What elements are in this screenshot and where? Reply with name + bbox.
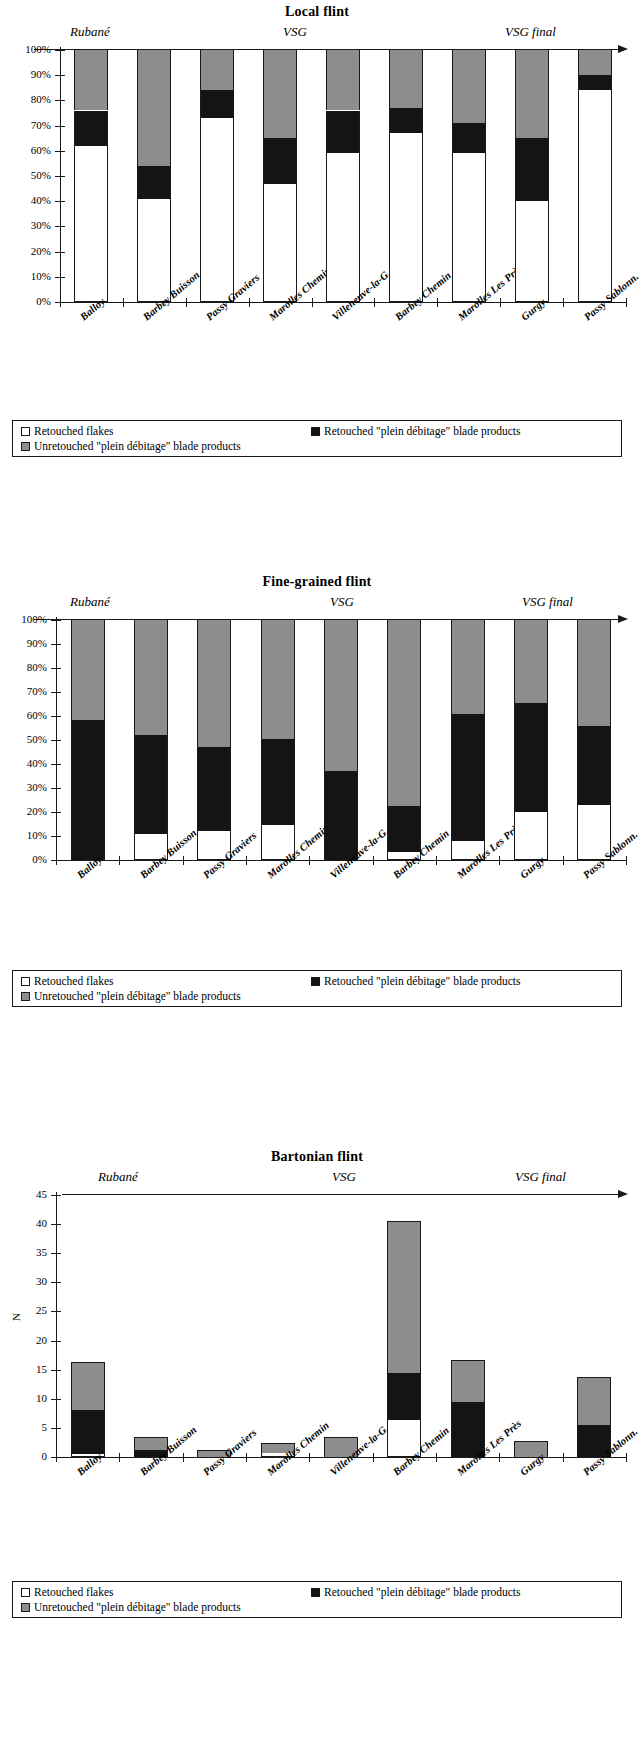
x-tick-mark xyxy=(183,1453,184,1462)
bar xyxy=(200,50,234,302)
bar-top-cap xyxy=(71,619,105,620)
y-tick-label: 100% xyxy=(0,44,51,55)
phase-label-vsg-final: VSG final xyxy=(515,1169,566,1185)
bar-segment-retouched-blades xyxy=(326,111,360,154)
bar-segment-retouched-blades xyxy=(389,108,423,133)
bar xyxy=(263,50,297,302)
y-axis xyxy=(56,617,57,860)
bar-segment-retouched-blades xyxy=(137,166,171,199)
y-tick-mark xyxy=(55,75,65,76)
bar-segment-unretouched-blades xyxy=(261,620,295,739)
legend-item-retouched-blades: Retouched "plein débitage" blade product… xyxy=(311,975,521,987)
bar-segment-retouched-blades xyxy=(387,1373,421,1420)
x-tick-mark xyxy=(249,298,250,307)
y-tick-label: 0% xyxy=(0,296,51,307)
bar-segment-unretouched-blades xyxy=(74,50,108,110)
y-tick-mark xyxy=(55,176,65,177)
chart-legend: Retouched flakesRetouched "plein débitag… xyxy=(12,970,622,1007)
y-tick-label: 0% xyxy=(0,854,47,865)
y-tick-label: 80% xyxy=(0,94,51,105)
bar xyxy=(452,50,486,302)
bar-segment-retouched-blades xyxy=(261,739,295,825)
y-tick-mark xyxy=(51,620,61,621)
phase-label-rubane: Rubané xyxy=(98,1169,138,1185)
bar-top-cap xyxy=(515,49,549,50)
bar-segment-unretouched-blades xyxy=(326,50,360,110)
legend-label: Unretouched "plein débitage" blade produ… xyxy=(34,440,241,452)
y-tick-mark xyxy=(51,1224,61,1225)
chart-title: Local flint xyxy=(0,4,634,20)
bar-segment-retouched-blades xyxy=(387,806,421,852)
bar xyxy=(71,1195,105,1457)
legend-item-retouched-flakes: Retouched flakes xyxy=(21,975,311,987)
bar xyxy=(389,50,423,302)
legend-swatch-black xyxy=(311,1588,320,1597)
x-tick-mark xyxy=(373,856,374,865)
bar-segment-retouched-blades xyxy=(578,75,612,90)
y-tick-label: 40% xyxy=(0,195,51,206)
bar-top-cap xyxy=(261,619,295,620)
bar xyxy=(577,620,611,860)
y-tick-label: 60% xyxy=(0,710,47,721)
y-tick-mark xyxy=(51,836,61,837)
y-tick-label: 50% xyxy=(0,170,51,181)
y-tick-mark xyxy=(51,740,61,741)
bar-top-cap xyxy=(326,49,360,50)
bar-segment-unretouched-blades xyxy=(387,620,421,806)
legend-label: Retouched "plein débitage" blade product… xyxy=(324,425,521,437)
x-tick-mark xyxy=(499,856,500,865)
bar-segment-retouched-blades xyxy=(200,90,234,118)
x-tick-mark xyxy=(246,856,247,865)
legend-swatch-black xyxy=(311,977,320,986)
bar xyxy=(326,50,360,302)
phase-label-vsg: VSG xyxy=(283,24,307,40)
bar-segment-unretouched-blades xyxy=(200,50,234,90)
bar-top-cap xyxy=(514,1441,548,1442)
y-tick-label: 70% xyxy=(0,686,47,697)
x-tick-mark xyxy=(373,1453,374,1462)
bar-top-cap xyxy=(451,1360,485,1361)
legend-row: Unretouched "plein débitage" blade produ… xyxy=(21,990,615,1002)
bar xyxy=(197,1195,231,1457)
y-tick-mark xyxy=(51,1253,61,1254)
y-tick-label: 80% xyxy=(0,662,47,673)
x-tick-mark xyxy=(246,1453,247,1462)
y-tick-label: 10 xyxy=(0,1393,47,1404)
chart-fine-grained-flint: Fine-grained flint Rubané VSG VSG final … xyxy=(0,570,634,1020)
bar-segment-retouched-flakes xyxy=(514,812,548,860)
y-axis-title: N xyxy=(10,1313,22,1321)
x-tick-mark xyxy=(563,856,564,865)
y-tick-label: 0 xyxy=(0,1451,47,1462)
bar-segment-retouched-blades xyxy=(577,726,611,805)
y-tick-mark xyxy=(55,151,65,152)
legend-label: Retouched "plein débitage" blade product… xyxy=(324,1586,521,1598)
x-tick-mark xyxy=(437,298,438,307)
bar-top-cap xyxy=(387,1221,421,1222)
legend-swatch-black xyxy=(311,427,320,436)
bar-top-cap xyxy=(134,619,168,620)
bar xyxy=(324,1195,358,1457)
plot-area: 051015202530354045NBalloyBarbey BuissonP… xyxy=(0,1189,634,1729)
y-tick-label: 50% xyxy=(0,734,47,745)
bar-top-cap xyxy=(134,1437,168,1438)
x-tick-mark xyxy=(309,856,310,865)
bar-segment-unretouched-blades xyxy=(71,1363,105,1410)
bar-segment-retouched-blades xyxy=(263,138,297,183)
legend-label: Unretouched "plein débitage" blade produ… xyxy=(34,990,241,1002)
bar-top-cap xyxy=(578,49,612,50)
bar-segment-retouched-flakes xyxy=(389,133,423,302)
legend-label: Retouched flakes xyxy=(34,1586,114,1598)
bar-top-cap xyxy=(577,619,611,620)
legend-item-unretouched-blades: Unretouched "plein débitage" blade produ… xyxy=(21,990,241,1002)
bar-segment-unretouched-blades xyxy=(451,1361,485,1402)
y-tick-mark xyxy=(51,1282,61,1283)
bar-segment-unretouched-blades xyxy=(389,50,423,108)
chart-bartonian-flint: Bartonian flint Rubané VSG VSG final 051… xyxy=(0,1145,634,1738)
bar xyxy=(515,50,549,302)
legend-label: Unretouched "plein débitage" blade produ… xyxy=(34,1601,241,1613)
bar-segment-retouched-blades xyxy=(514,703,548,812)
bar-segment-unretouched-blades xyxy=(324,620,358,771)
bar-top-cap xyxy=(387,619,421,620)
y-tick-label: 90% xyxy=(0,638,47,649)
x-tick-mark xyxy=(563,298,564,307)
